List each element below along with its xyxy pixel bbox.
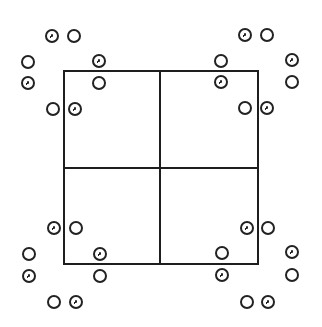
empty-circle-icon [261, 221, 275, 235]
empty-circle-icon [260, 28, 274, 42]
marked-circle-icon [93, 247, 107, 261]
comma-mark-icon [53, 226, 55, 229]
empty-circle-icon [92, 76, 106, 90]
marked-circle-icon [69, 295, 83, 309]
marked-circle-icon [261, 295, 275, 309]
comma-mark-icon [266, 106, 268, 109]
comma-mark-icon [27, 81, 29, 84]
comma-mark-icon [221, 273, 223, 276]
empty-circle-icon [93, 269, 107, 283]
empty-circle-icon [215, 246, 229, 260]
marked-circle-icon [240, 221, 254, 235]
marked-circle-icon [92, 54, 106, 68]
marked-circle-icon [68, 102, 82, 116]
empty-circle-icon [285, 268, 299, 282]
marked-circle-icon [45, 29, 59, 43]
comma-mark-icon [220, 80, 222, 83]
marked-circle-icon [214, 75, 228, 89]
empty-circle-icon [214, 54, 228, 68]
comma-mark-icon [291, 250, 293, 253]
comma-mark-icon [74, 107, 76, 110]
marked-circle-icon [238, 28, 252, 42]
comma-mark-icon [98, 59, 100, 62]
marked-circle-icon [260, 101, 274, 115]
marked-circle-icon [21, 76, 35, 90]
comma-mark-icon [244, 33, 246, 36]
empty-circle-icon [67, 29, 81, 43]
comma-mark-icon [51, 34, 53, 37]
empty-circle-icon [21, 55, 35, 69]
empty-circle-icon [240, 295, 254, 309]
empty-circle-icon [47, 295, 61, 309]
comma-mark-icon [267, 300, 269, 303]
comma-mark-icon [75, 300, 77, 303]
marked-circle-icon [285, 245, 299, 259]
empty-circle-icon [46, 102, 60, 116]
square-top-edge [63, 70, 259, 72]
marked-circle-icon [285, 53, 299, 67]
marked-circle-icon [22, 269, 36, 283]
comma-mark-icon [246, 226, 248, 229]
diagram-canvas [0, 0, 322, 327]
marked-circle-icon [215, 268, 229, 282]
center-horizontal-line [63, 167, 259, 169]
marked-circle-icon [47, 221, 61, 235]
empty-circle-icon [69, 221, 83, 235]
square-bottom-edge [63, 263, 259, 265]
comma-mark-icon [99, 252, 101, 255]
comma-mark-icon [291, 58, 293, 61]
comma-mark-icon [28, 274, 30, 277]
empty-circle-icon [238, 101, 252, 115]
empty-circle-icon [285, 75, 299, 89]
empty-circle-icon [22, 247, 36, 261]
